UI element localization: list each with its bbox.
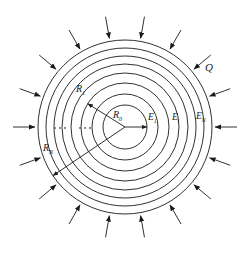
label-radius-r0: R0	[113, 110, 122, 122]
field-arrow	[39, 55, 56, 69]
label-radius-rn: RN	[43, 143, 53, 155]
ellipsis-dot	[89, 127, 91, 129]
ellipsis-dot	[64, 127, 66, 129]
ellipsis-dot	[84, 127, 86, 129]
field-arrow	[210, 89, 231, 97]
label-field-ei: Ei	[172, 113, 179, 125]
field-arrow	[20, 89, 41, 97]
radius-line-rn	[53, 127, 125, 176]
ellipsis-dots-group	[54, 127, 91, 129]
field-arrow	[69, 30, 80, 49]
field-arrow	[210, 158, 231, 166]
field-arrow	[106, 216, 110, 238]
physics-diagram: Q R0 R1 RN E1 Ei EN	[0, 0, 248, 254]
field-arrow	[39, 185, 56, 199]
diagram-canvas	[0, 0, 248, 254]
ellipsis-dot	[54, 127, 56, 129]
label-field-e1: E1	[148, 113, 157, 125]
ellipsis-dot	[59, 127, 61, 129]
label-radius-r1: R1	[76, 84, 85, 96]
ellipsis-dot	[79, 127, 81, 129]
label-field-en: EN	[196, 112, 206, 124]
field-arrow	[170, 205, 181, 224]
field-arrow	[194, 185, 211, 199]
field-arrow	[141, 17, 145, 39]
field-arrow	[141, 216, 145, 238]
field-arrow	[106, 17, 110, 39]
label-charge-q: Q	[205, 62, 213, 73]
radius-lines-group	[53, 104, 147, 176]
field-arrow	[69, 205, 80, 224]
field-arrow	[170, 30, 181, 49]
field-arrow	[20, 158, 41, 166]
